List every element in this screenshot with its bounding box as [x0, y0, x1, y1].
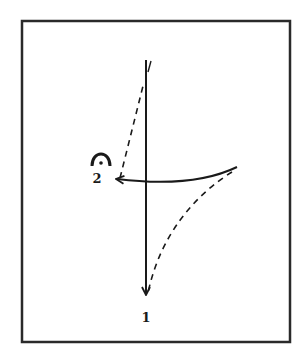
fermata-icon [92, 154, 110, 166]
conducting-diagram: 2 1 [0, 0, 307, 363]
dashed-rebound-line-upper [120, 82, 144, 178]
beat-label-1: 1 [141, 310, 150, 325]
start-tick [148, 61, 151, 72]
dashed-rebound-curve-lower [148, 172, 232, 293]
beat-two-arrow-arc [117, 167, 237, 182]
beat-label-2: 2 [92, 171, 101, 186]
